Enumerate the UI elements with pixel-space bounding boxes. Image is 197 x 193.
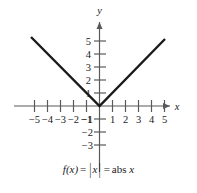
y-tick-labels-negative: −1 −2 −3 <box>82 114 93 151</box>
y-tick-label: −2 <box>82 127 93 138</box>
caption-equals-sign: = <box>80 163 86 175</box>
absolute-value-curve <box>31 37 165 106</box>
caption-abs-keyword: abs <box>112 163 127 175</box>
caption-abs-argument: x <box>129 163 134 175</box>
y-tick-label: 3 <box>86 62 91 73</box>
x-tick-label: −4 <box>42 114 54 125</box>
y-axis-label: y <box>96 5 102 16</box>
caption-abs-variable: x <box>93 163 98 175</box>
caption-equals-sign-2: = <box>104 163 110 175</box>
y-axis-arrowhead-icon <box>97 22 103 29</box>
y-tick-label: 2 <box>86 75 91 86</box>
x-tick-label: −5 <box>29 114 40 125</box>
x-tick-label: 4 <box>149 114 155 125</box>
caption-abs-bar-open: | <box>89 160 91 177</box>
y-tick-labels-positive: 5 4 3 2 1 <box>86 36 92 99</box>
y-tick-label: −3 <box>82 140 93 151</box>
x-tick-label: 2 <box>123 114 128 125</box>
figure-caption: f(x)=|x|=abs x <box>0 163 197 175</box>
y-tick-label: −1 <box>82 114 93 125</box>
caption-function-notation: f(x) <box>63 163 78 175</box>
x-tick-label: 3 <box>136 114 141 125</box>
x-tick-label: −2 <box>68 114 79 125</box>
x-axis-label: x <box>174 101 180 112</box>
x-tick-label: 5 <box>162 114 167 125</box>
x-tick-label: 1 <box>110 114 115 125</box>
y-tick-label: 4 <box>86 49 92 60</box>
x-tick-label: −3 <box>55 114 66 125</box>
caption-abs-bar-close: | <box>98 160 100 177</box>
y-tick-label: 5 <box>86 36 91 47</box>
